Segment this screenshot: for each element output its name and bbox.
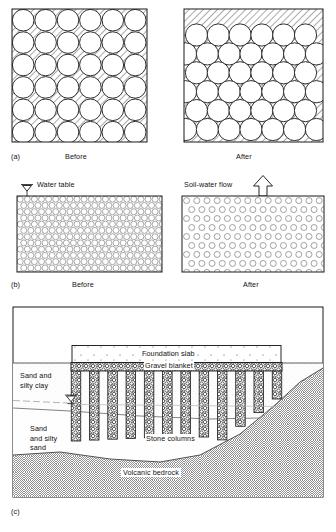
soil-water-flow-label: Soil-water flow: [184, 180, 232, 189]
water-table-label: Water table: [37, 180, 75, 189]
water-table-icon: [21, 185, 33, 196]
panel-a-after-caption: After: [236, 152, 252, 161]
stone-columns-label: Stone columns: [145, 434, 196, 443]
stone-column: [181, 368, 191, 437]
panel-b-before-box: [17, 196, 169, 277]
panel-c-letter: (c): [11, 507, 20, 516]
stone-column: [272, 368, 282, 399]
panel-b-after-box: [182, 196, 332, 284]
volcanic-bedrock-label: Volcanic bedrock: [121, 468, 181, 477]
gravel-blanket-label: Gravel blanket: [144, 361, 194, 370]
sand-silty-sand-label: Sand and silty sand: [30, 424, 57, 453]
panel-a-before-box: [12, 9, 147, 143]
stone-column: [126, 368, 136, 438]
stone-column: [90, 368, 100, 440]
sand-silty-clay-label: Sand and silty clay: [20, 371, 52, 390]
panel-b-letter: (b): [11, 280, 20, 289]
panel-a-before-caption: Before: [65, 152, 87, 161]
panel-a-after-box: [175, 9, 328, 142]
stone-column: [163, 368, 173, 437]
stone-column: [217, 368, 227, 440]
soil-water-flow-arrow-icon: [254, 176, 273, 197]
panel-b-before-caption: Before: [72, 280, 94, 289]
stone-column: [236, 368, 246, 426]
stone-column: [199, 368, 209, 437]
panel-b-after-caption: After: [243, 280, 259, 289]
panel-a: [12, 9, 328, 143]
panel-a-letter: (a): [11, 152, 20, 161]
stone-column: [144, 368, 154, 438]
stone-column: [71, 368, 81, 441]
panel-b: [17, 176, 332, 285]
stone-column: [108, 368, 118, 439]
foundation-slab-label: Foundation slab: [142, 349, 195, 358]
